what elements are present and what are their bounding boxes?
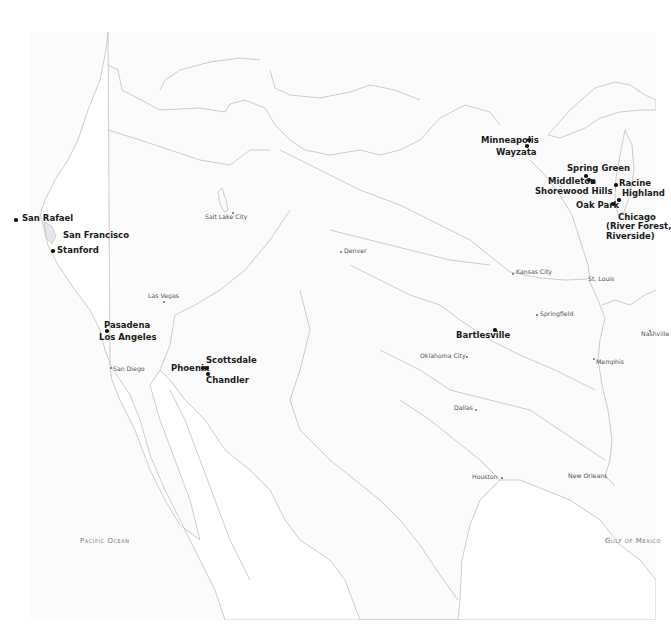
city-label-memphis: Memphis xyxy=(596,359,624,366)
place-label-shorewood-hills[interactable]: Shorewood Hills xyxy=(535,187,612,196)
city-marker-oklahoma-city xyxy=(466,356,468,358)
place-marker-racine[interactable] xyxy=(614,183,618,187)
place-label-san-francisco[interactable]: San Francisco xyxy=(63,231,129,240)
city-marker-denver xyxy=(340,251,342,253)
place-label-los-angeles[interactable]: Los Angeles xyxy=(99,333,157,342)
place-label-bartlesville[interactable]: Bartlesville xyxy=(456,331,510,340)
city-marker-memphis xyxy=(593,358,595,360)
place-marker-san-rafael[interactable] xyxy=(14,218,18,222)
place-label-stanford[interactable]: Stanford xyxy=(57,246,99,255)
place-label-scottsdale[interactable]: Scottsdale xyxy=(206,356,257,365)
map-canvas[interactable]: Pacific Ocean Gulf of Mexico San Rafael … xyxy=(30,32,656,620)
city-marker-houston xyxy=(501,477,503,479)
place-label-chandler[interactable]: Chandler xyxy=(206,376,249,385)
water-label-gulf-of-mexico: Gulf of Mexico xyxy=(605,538,661,546)
place-marker-stanford[interactable] xyxy=(51,249,55,253)
city-label-st-louis: St. Louis xyxy=(588,276,614,283)
place-label-racine[interactable]: Racine xyxy=(619,179,651,188)
city-marker-san-diego xyxy=(110,367,112,369)
city-label-springfield: Springfield xyxy=(540,311,573,318)
place-marker-oak-park[interactable] xyxy=(611,202,615,206)
place-label-spring-green[interactable]: Spring Green xyxy=(567,164,630,173)
city-label-oklahoma-city: Oklahoma City xyxy=(420,353,466,360)
water-label-pacific-ocean: Pacific Ocean xyxy=(80,538,130,546)
place-label-san-rafael[interactable]: San Rafael xyxy=(22,214,73,223)
place-label-phoenix[interactable]: Phoenix xyxy=(171,364,209,373)
city-label-dallas: Dallas xyxy=(454,405,473,412)
place-label-wayzata[interactable]: Wayzata xyxy=(496,148,537,157)
place-label-middleton[interactable]: Middleton xyxy=(548,177,596,186)
city-marker-las-vegas xyxy=(163,301,165,303)
city-label-san-diego: San Diego xyxy=(113,366,145,373)
city-label-houston: Houston xyxy=(472,474,498,481)
place-label-chicago-line3: Riverside) xyxy=(606,232,671,241)
place-label-chicago[interactable]: Chicago (River Forest, Riverside) xyxy=(606,213,671,241)
city-marker-dallas xyxy=(475,409,477,411)
place-label-pasadena[interactable]: Pasadena xyxy=(104,321,150,330)
city-label-salt-lake-city: Salt Lake City xyxy=(205,214,247,221)
place-label-highland-park[interactable]: Highland xyxy=(622,189,665,198)
place-marker-minneapolis[interactable] xyxy=(527,138,531,142)
city-label-las-vegas: Las Vegas xyxy=(148,293,179,300)
city-marker-springfield xyxy=(536,314,538,316)
city-label-denver: Denver xyxy=(344,248,367,255)
city-label-new-orleans: New Orleans xyxy=(568,473,607,480)
city-label-nashville: Nashville xyxy=(641,331,669,338)
city-marker-kansas-city xyxy=(512,273,514,275)
city-label-kansas-city: Kansas City xyxy=(516,269,552,276)
